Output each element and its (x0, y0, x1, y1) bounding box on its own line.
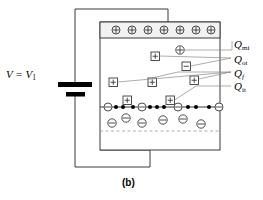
depletion-charge-2 (122, 114, 130, 122)
depletion-charge-4 (159, 116, 167, 124)
oxide-trapped-charge-2 (182, 62, 191, 71)
depletion-charge-1 (108, 119, 116, 127)
depletion-charge-5 (179, 115, 187, 123)
label-q-it-sub: it (242, 86, 246, 94)
label-q-mi-symbol: Q (234, 38, 242, 50)
interface-circle-minus-1 (104, 103, 112, 111)
label-q-mi-sub: mi (242, 44, 249, 52)
mobile-ionic-charge (176, 46, 184, 54)
voltage-label: V = V1 (6, 68, 36, 82)
interface-trap-1 (123, 96, 132, 105)
depletion-charge-6 (197, 120, 205, 128)
interface-circle-minus-3 (174, 103, 182, 111)
fixed-oxide-charge-1 (109, 78, 118, 87)
label-q-it-symbol: Q (234, 80, 242, 92)
gate-charge-7 (207, 26, 215, 34)
figure-canvas: V = V1 Qmi Qot Qf Qit (b) (0, 0, 263, 200)
label-q-mi: Qmi (234, 38, 249, 52)
label-q-ot-sub: ot (242, 59, 247, 67)
interface-circle-minus-2 (138, 103, 146, 111)
oxide-trapped-charge-1 (151, 52, 160, 61)
label-q-ot: Qot (234, 53, 247, 67)
gate-charge-5 (176, 26, 184, 34)
voltage-label-sub: 1 (32, 73, 36, 82)
figure-caption: (b) (122, 177, 135, 188)
mos-capacitor-diagram (0, 0, 263, 200)
battery-positive-plate (58, 82, 92, 87)
gate-charge-6 (192, 26, 200, 34)
label-q-it: Qit (234, 80, 246, 94)
gate-charge-1 (112, 26, 120, 34)
label-q-f-symbol: Q (234, 67, 242, 79)
interface-circle-minus-4 (215, 103, 223, 111)
gate-charge-2 (128, 26, 136, 34)
battery-negative-plate (66, 92, 85, 97)
gate-charge-4 (160, 26, 168, 34)
fixed-oxide-charge-3 (190, 76, 199, 85)
gate-charge-3 (144, 26, 152, 34)
voltage-label-main: V = V (6, 68, 32, 80)
label-q-ot-symbol: Q (234, 53, 242, 65)
battery-symbol (58, 82, 92, 97)
interface-trap-2 (166, 96, 175, 105)
label-q-f: Qf (234, 67, 244, 81)
depletion-charge-3 (138, 119, 146, 127)
